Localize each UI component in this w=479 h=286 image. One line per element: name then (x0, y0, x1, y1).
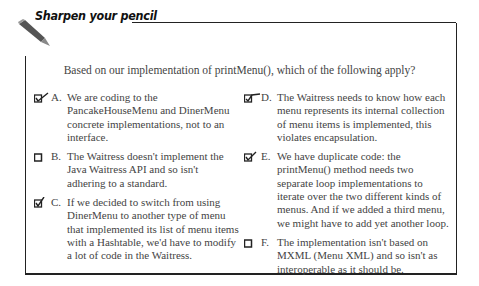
option-text: The Waitress doesn't implement the Java … (67, 150, 224, 189)
option-d[interactable]: D. The Waitress needs to know how each m… (244, 91, 449, 144)
option-letter: C. (51, 196, 61, 209)
option-text: We have duplicate code: the printMenu() … (277, 150, 449, 228)
option-text: If we decided to switch from using Diner… (67, 196, 239, 261)
option-letter: F. (261, 236, 269, 249)
option-text: The Waitress needs to know how each menu… (277, 91, 445, 143)
checked-box-icon[interactable] (244, 92, 262, 104)
option-c[interactable]: C. If we decided to switch from using Di… (34, 196, 239, 262)
option-letter: E. (261, 150, 270, 163)
section-title: Sharpen your pencil (35, 8, 157, 23)
option-a[interactable]: A. We are coding to the PancakeHouseMenu… (34, 91, 239, 144)
question-text: Based on our implementation of printMenu… (0, 64, 479, 76)
option-text: We are coding to the PancakeHouseMenu an… (67, 91, 230, 143)
checked-box-icon[interactable] (34, 92, 52, 104)
checked-box-icon[interactable] (244, 151, 262, 163)
empty-box-icon[interactable] (244, 237, 262, 249)
options-column-left: A. We are coding to the PancakeHouseMenu… (34, 91, 239, 269)
option-letter: D. (261, 91, 272, 104)
option-f[interactable]: F. The implementation isn't based on MXM… (244, 236, 449, 276)
option-e[interactable]: E. We have duplicate code: the printMenu… (244, 150, 449, 230)
empty-box-icon[interactable] (34, 151, 52, 163)
option-text: The implementation isn't based on MXML (… (277, 236, 437, 275)
option-letter: A. (51, 91, 62, 104)
checked-box-icon[interactable] (34, 197, 52, 209)
options-column-right: D. The Waitress needs to know how each m… (244, 91, 449, 282)
title-rule (132, 22, 456, 23)
option-letter: B. (51, 150, 61, 163)
option-b[interactable]: B. The Waitress doesn't implement the Ja… (34, 150, 239, 190)
